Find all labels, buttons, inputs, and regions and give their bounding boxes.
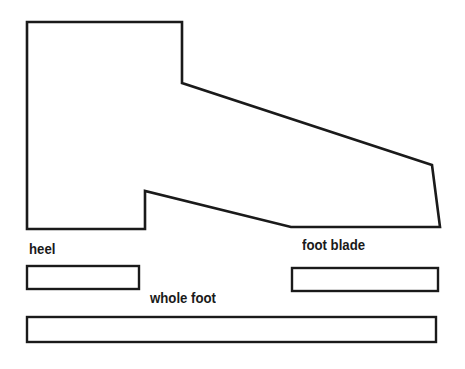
foot-blade-label: foot blade (302, 236, 365, 253)
foot-outline-shape (27, 22, 440, 229)
foot-blade-bar (292, 268, 438, 291)
whole-foot-bar (27, 317, 436, 342)
heel-label: heel (29, 240, 55, 257)
foot-diagram (0, 0, 465, 369)
whole-foot-label: whole foot (150, 289, 216, 306)
heel-bar (27, 266, 139, 289)
